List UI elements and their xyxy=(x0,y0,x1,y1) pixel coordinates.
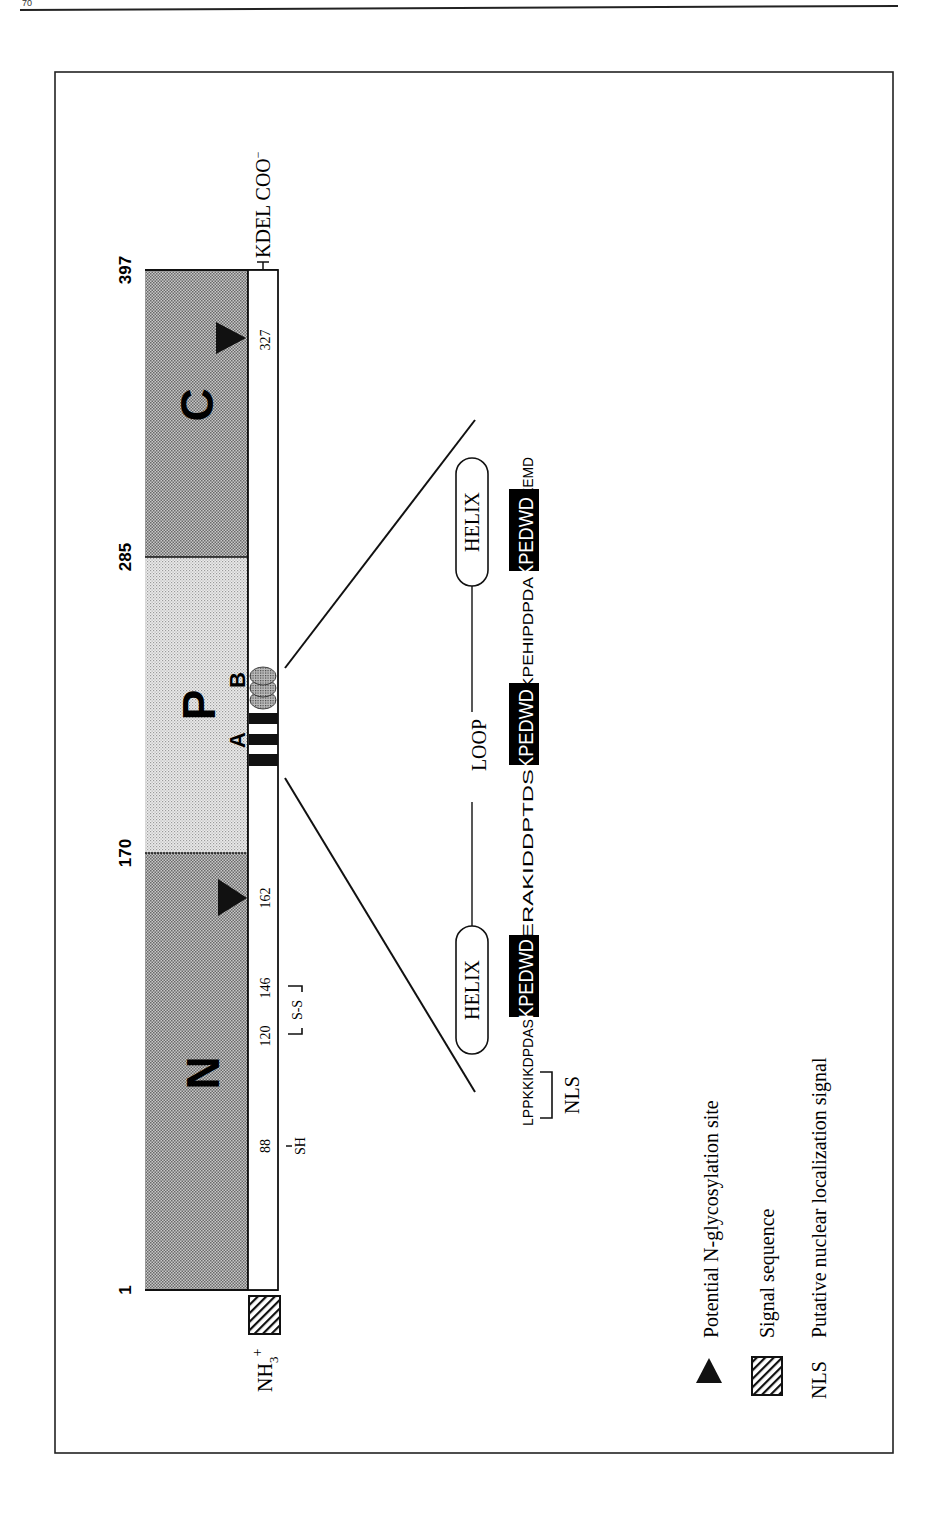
legend-triangle-icon xyxy=(696,1358,722,1383)
legend-label-signal-sequence: Signal sequence xyxy=(756,1208,779,1338)
residue-162: 162 xyxy=(258,888,273,909)
legend: Potential N-glycosylation site Signal se… xyxy=(696,1057,831,1399)
position-285: 285 xyxy=(116,543,135,571)
sh-label: SH xyxy=(293,1137,308,1155)
repeat-label-b: B xyxy=(225,672,250,688)
c-terminus-label: KDEL COO− xyxy=(251,151,274,258)
legend-nls-abbrev: NLS xyxy=(808,1361,830,1399)
disulfide-bracket: S-S xyxy=(288,986,305,1034)
nls-bracket: NLS xyxy=(540,1072,583,1118)
helix-1-label: HELIX xyxy=(461,959,483,1020)
position-170: 170 xyxy=(116,839,135,867)
sequence-text: LPPKKIKDPDASKPEDWDERAKIDDPTDSKPEDWDKPEHI… xyxy=(514,457,537,1126)
domain-bar: C P N A B 327 162 146 120 88 xyxy=(145,270,278,1290)
signal-sequence-hatched-box-icon xyxy=(249,1296,280,1334)
page-number: 70 xyxy=(22,0,32,8)
repeat-a-bar-3 xyxy=(249,754,278,766)
expansion-structure: HELIX LOOP HELIX xyxy=(456,458,490,1054)
repeat-a-bar-2 xyxy=(249,734,278,745)
residue-120: 120 xyxy=(258,1026,273,1047)
disulfide-label: S-S xyxy=(290,1000,305,1020)
legend-label-nls: Putative nuclear localization signal xyxy=(808,1057,831,1338)
figure-canvas: 70 C P N A B xyxy=(0,0,945,1532)
position-1: 1 xyxy=(116,1285,135,1294)
repeat-b-circles xyxy=(250,667,276,709)
loop-label: LOOP xyxy=(468,719,490,771)
expansion-line-lower xyxy=(285,778,475,1092)
sequence-line: LPPKKIKDPDASKPEDWDERAKIDDPTDSKPEDWDKPEHI… xyxy=(509,457,539,1126)
header-rule xyxy=(20,6,898,10)
residue-327: 327 xyxy=(258,330,273,351)
repeat-label-a: A xyxy=(225,732,250,748)
residue-88: 88 xyxy=(258,1139,273,1153)
legend-hatched-box-icon xyxy=(752,1357,782,1395)
repeat-a-bar-1 xyxy=(249,713,278,724)
nls-label: NLS xyxy=(561,1076,583,1114)
domain-label-c: C xyxy=(171,388,223,421)
backbone-strip xyxy=(248,270,278,1290)
helix-2-label: HELIX xyxy=(461,491,483,552)
legend-label-glycosylation: Potential N-glycosylation site xyxy=(700,1100,723,1338)
residue-146: 146 xyxy=(258,978,273,999)
position-397: 397 xyxy=(116,256,135,284)
domain-label-n: N xyxy=(177,1056,229,1089)
n-terminus-label: NH3+ xyxy=(250,1349,281,1392)
expansion-line-upper xyxy=(285,420,475,668)
domain-label-p: P xyxy=(173,690,225,721)
